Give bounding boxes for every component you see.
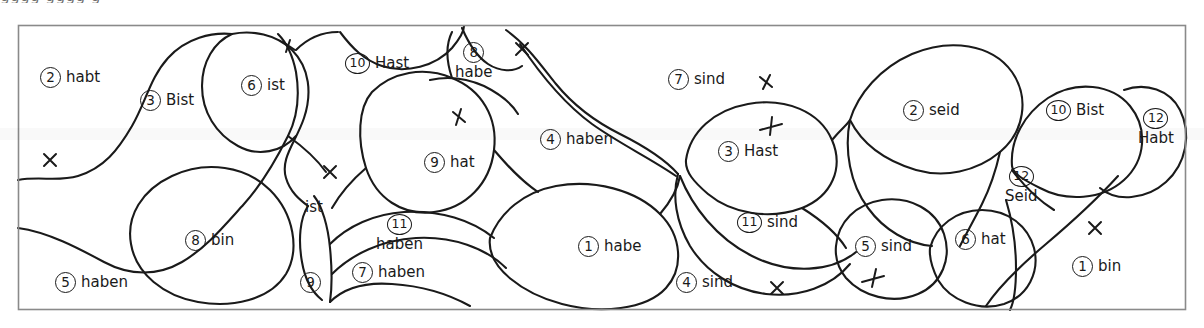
- region-number-badge: 9: [424, 152, 445, 173]
- region-word: Seid: [1005, 189, 1037, 204]
- region-word: sind: [702, 275, 733, 290]
- region-number-badge: 2: [40, 67, 61, 88]
- region-label-r6-hat: 6hat: [955, 229, 1006, 250]
- region-number-badge: 10: [1046, 100, 1071, 121]
- region-label-r2-habt: 2habt: [40, 67, 100, 88]
- region-word: bin: [1098, 259, 1121, 274]
- region-word: hat: [450, 155, 475, 170]
- region-word: Bist: [1076, 103, 1104, 118]
- region-label-r8-habe: 8habe: [455, 42, 492, 80]
- region-word: haben: [566, 132, 613, 147]
- region-word: haben: [376, 237, 423, 252]
- region-number-badge: 11: [387, 214, 412, 235]
- region-word: hat: [981, 232, 1006, 247]
- region-label-r4-sind: 4sind: [676, 272, 733, 293]
- region-word: Hast: [744, 144, 778, 159]
- region-number-badge: 1: [578, 236, 599, 257]
- mark-x-4: [453, 109, 465, 125]
- region-number-badge: 8: [463, 42, 484, 63]
- region-label-r3-bist: 3Bist: [140, 90, 194, 111]
- region-label-r6-ist: 6ist: [241, 75, 285, 96]
- region-label-r2-seid: 2seid: [903, 100, 960, 121]
- region-label-r3-hast: 3Hast: [718, 141, 778, 162]
- region-number-badge: 11: [737, 212, 762, 233]
- region-number-badge: 3: [140, 90, 161, 111]
- region-number-badge: 5: [55, 272, 76, 293]
- diagram-canvas: gggg gggg g: [0, 0, 1204, 328]
- region-label-r11-haben: 11haben: [376, 214, 423, 252]
- region-number-badge: 9: [300, 272, 321, 293]
- region-number-badge: 12: [1009, 166, 1034, 187]
- region-word: habe: [604, 239, 641, 254]
- region-label-r9-only: 9: [300, 272, 321, 293]
- region-word: haben: [378, 265, 425, 280]
- region-word: sind: [881, 239, 912, 254]
- region-label-r7-haben: 7haben: [352, 262, 425, 283]
- region-label-r1-habe: 1habe: [578, 236, 641, 257]
- region-number-badge: 7: [668, 69, 689, 90]
- region-number-badge: 2: [903, 100, 924, 121]
- region-word: habe: [455, 65, 492, 80]
- region-word: Bist: [166, 93, 194, 108]
- region-number-badge: 10: [345, 53, 370, 74]
- region-number-badge: 4: [676, 272, 697, 293]
- region-word: sind: [767, 215, 798, 230]
- region-word: ist: [267, 78, 285, 93]
- region-word: bin: [211, 233, 234, 248]
- region-label-r5-haben: 5haben: [55, 272, 128, 293]
- mark-x-9: [862, 269, 884, 287]
- region-number-badge: 4: [540, 129, 561, 150]
- mark-x-10: [1089, 222, 1101, 234]
- region-label-r8-bin: 8bin: [185, 230, 234, 251]
- mark-x-1: [44, 154, 56, 166]
- mark-x-8: [771, 282, 783, 294]
- region-number-badge: 1: [1072, 256, 1093, 277]
- region-word: ist: [305, 200, 323, 215]
- region-number-badge: 6: [955, 229, 976, 250]
- region-label-r10-hast: 10Hast: [345, 53, 409, 74]
- region-label-r5-sind: 5sind: [855, 236, 912, 257]
- region-number-badge: 12: [1143, 108, 1168, 129]
- region-label-r10-bist: 10Bist: [1046, 100, 1104, 121]
- region-word: Hast: [375, 56, 409, 71]
- region-label-r11-sind: 11sind: [737, 212, 798, 233]
- region-label-r7-sind: 7sind: [668, 69, 725, 90]
- region-word: Habt: [1138, 131, 1174, 146]
- region-word: seid: [929, 103, 960, 118]
- region-number-badge: 5: [855, 236, 876, 257]
- region-label-plain-ist: ist: [305, 200, 323, 215]
- region-label-r1-bin: 1bin: [1072, 256, 1121, 277]
- region-word: haben: [81, 275, 128, 290]
- mark-x-6: [760, 75, 772, 89]
- region-number-badge: 7: [352, 262, 373, 283]
- region-number-badge: 3: [718, 141, 739, 162]
- mark-x-7: [760, 117, 782, 135]
- region-number-badge: 6: [241, 75, 262, 96]
- region-label-r4-haben: 4haben: [540, 129, 613, 150]
- region-number-badge: 8: [185, 230, 206, 251]
- region-word: sind: [694, 72, 725, 87]
- hand-drawn-curves: [0, 0, 1204, 328]
- region-word: habt: [66, 70, 100, 85]
- region-label-r9-hat: 9hat: [424, 152, 475, 173]
- region-label-r12-habt: 12Habt: [1138, 108, 1174, 146]
- region-label-r12-seid: 12Seid: [1005, 166, 1037, 204]
